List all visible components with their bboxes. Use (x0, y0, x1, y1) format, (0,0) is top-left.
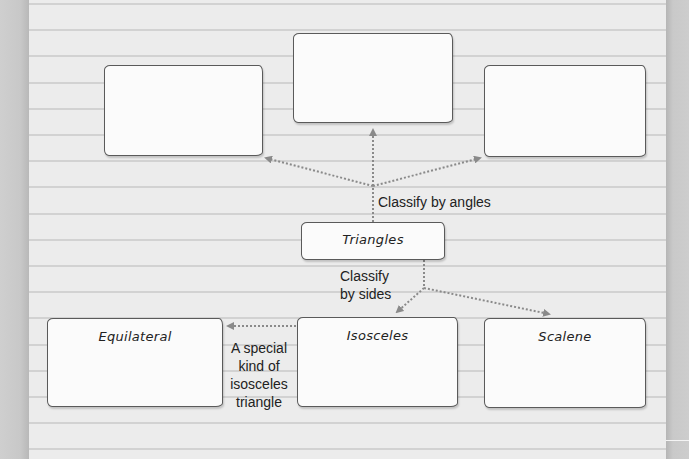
note-line1: A special (224, 339, 294, 357)
angle-box-center (293, 33, 453, 123)
isosceles-label: Isosceles (298, 328, 457, 343)
arrow-isosceles (397, 288, 424, 312)
note-line2: kind of (224, 357, 294, 375)
angle-box-right (484, 65, 646, 157)
caption-classify-by-sides: Classify by sides (340, 267, 391, 303)
caption-classify-by-angles: Classify by angles (378, 193, 491, 211)
arrow-angle-left (266, 158, 373, 186)
box-isosceles: Isosceles (297, 317, 458, 407)
arrow-angle-right (373, 158, 480, 186)
caption-sides-line1: Classify (340, 267, 391, 285)
equilateral-label: Equilateral (48, 329, 222, 344)
box-scalene: Scalene (484, 318, 646, 408)
arrow-scalene (424, 288, 549, 314)
scalene-label: Scalene (485, 329, 645, 344)
note-special-isosceles: A special kind of isosceles triangle (224, 339, 294, 411)
note-line3: isosceles (224, 375, 294, 393)
root-box-triangles: Triangles (301, 222, 445, 260)
box-equilateral: Equilateral (47, 318, 223, 407)
caption-sides-line2: by sides (340, 285, 391, 303)
note-line4: triangle (224, 393, 294, 411)
angle-box-left (104, 65, 263, 156)
root-label: Triangles (302, 232, 444, 247)
